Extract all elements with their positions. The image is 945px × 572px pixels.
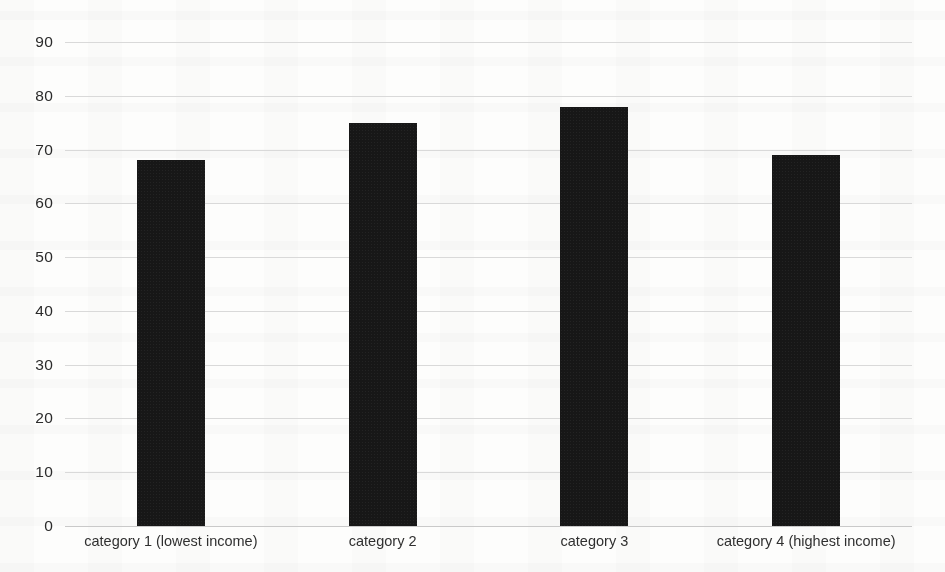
y-tick-label: 10 (7, 464, 53, 480)
x-tick-label: category 3 (489, 534, 701, 550)
x-tick-label: category 2 (277, 534, 489, 550)
chart-page: 90 80 70 60 50 40 30 20 10 0 (0, 0, 945, 572)
x-tick-label: category 4 (highest income) (700, 534, 912, 550)
bar-series (65, 42, 912, 526)
axis-baseline (65, 526, 912, 527)
y-tick-label: 50 (7, 249, 53, 265)
y-tick-label: 60 (7, 195, 53, 211)
bar-category-4[interactable] (772, 155, 840, 526)
y-tick-label: 30 (7, 357, 53, 373)
bar-category-2[interactable] (349, 123, 417, 526)
y-tick-label: 90 (7, 34, 53, 50)
x-tick-label: category 1 (lowest income) (65, 534, 277, 550)
y-tick-label: 80 (7, 88, 53, 104)
y-tick-label: 40 (7, 303, 53, 319)
y-tick-label: 20 (7, 410, 53, 426)
bar-category-3[interactable] (560, 107, 628, 526)
y-tick-label: 70 (7, 142, 53, 158)
y-tick-label: 0 (7, 518, 53, 534)
y-axis-tick-labels: 90 80 70 60 50 40 30 20 10 0 (0, 42, 53, 526)
x-axis-tick-labels: category 1 (lowest income) category 2 ca… (65, 534, 912, 564)
bar-chart: 90 80 70 60 50 40 30 20 10 0 (0, 0, 945, 572)
bar-category-1[interactable] (137, 160, 205, 526)
